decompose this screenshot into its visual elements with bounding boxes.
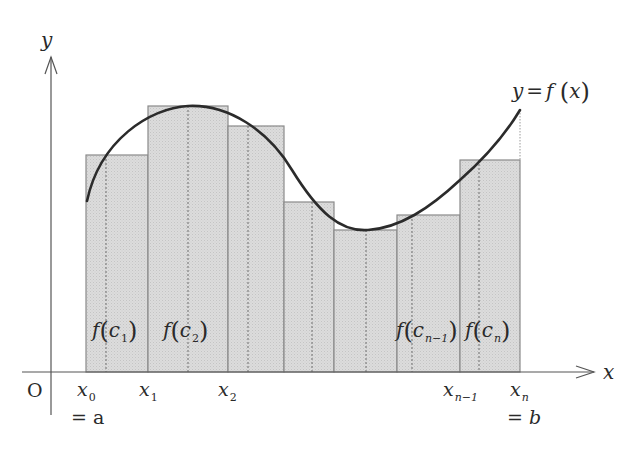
curve-label-open: ( (560, 78, 569, 106)
tick-note-a: = a (71, 408, 104, 427)
tick-note-b: = b (507, 408, 541, 427)
curve-label: y=f (x) (512, 78, 590, 102)
label-f-c1: f(c1) (92, 317, 137, 341)
rectangle-6 (397, 215, 460, 372)
label-f-cn-1: f(cn−1) (396, 317, 458, 341)
label-f-cn: f(cn) (465, 317, 510, 341)
curve-label-x: x (569, 79, 580, 103)
curve-label-y: y (512, 79, 523, 103)
curve-label-eq: = (526, 79, 543, 103)
rectangle-4 (284, 202, 334, 372)
origin-label: O (27, 381, 43, 400)
x-axis-label: x (603, 362, 614, 382)
tick-label-xn-1: xn−1 (443, 380, 478, 399)
label-f-c2: f(c2) (163, 317, 208, 341)
tick-label-x2: x2 (218, 380, 237, 399)
y-axis-label: y (41, 30, 52, 50)
curve-label-f: f (546, 79, 553, 103)
tick-label-x1: x1 (139, 380, 158, 399)
tick-label-xn: xn (510, 380, 529, 399)
riemann-sum-diagram (0, 0, 642, 450)
tick-label-x0: x0 (77, 380, 96, 399)
y-axis (45, 57, 57, 415)
curve-label-close: ) (581, 78, 590, 106)
rectangle-3 (228, 126, 284, 372)
